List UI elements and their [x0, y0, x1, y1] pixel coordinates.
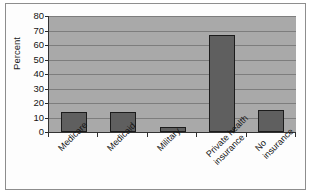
gridline	[49, 31, 296, 32]
gridline	[49, 60, 296, 61]
y-axis-title: Percent	[11, 27, 22, 81]
gridline	[49, 16, 296, 17]
gridline	[49, 74, 296, 75]
x-axis-category-labels: MedicareMedicaidMilitaryPrivate health i…	[48, 132, 296, 190]
y-tick-label: 40	[24, 69, 44, 79]
gridline	[49, 89, 296, 90]
y-axis-tick-labels: 01020304050607080	[24, 10, 44, 138]
y-tick-label: 80	[24, 11, 44, 21]
y-tick-label: 60	[24, 40, 44, 50]
gridline	[49, 45, 296, 46]
y-tick-label: 0	[24, 127, 44, 137]
gridline	[49, 103, 296, 104]
y-tick-label: 70	[24, 26, 44, 36]
y-tick-label: 50	[24, 55, 44, 65]
y-tick-label: 20	[24, 98, 44, 108]
plot-area	[48, 16, 296, 133]
y-tick-label: 30	[24, 84, 44, 94]
bar-chart-figure: Percent 01020304050607080 MedicareMedica…	[0, 0, 311, 192]
bar	[209, 35, 235, 132]
y-tick-label: 10	[24, 113, 44, 123]
